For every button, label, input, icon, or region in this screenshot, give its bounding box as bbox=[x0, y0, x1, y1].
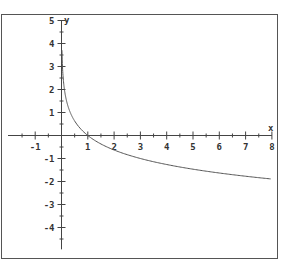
x-tick-label: 8 bbox=[269, 142, 274, 152]
y-tick-label: 3 bbox=[49, 62, 54, 72]
x-tick-label: 1 bbox=[85, 142, 90, 152]
y-tick-label: -3 bbox=[44, 200, 55, 210]
y-tick-label: -2 bbox=[44, 177, 55, 187]
x-tick-label: 4 bbox=[164, 142, 170, 152]
y-tick-label: 5 bbox=[49, 16, 54, 26]
y-axis-label: y bbox=[64, 15, 70, 25]
x-axis-label: x bbox=[268, 123, 274, 133]
x-tick-label: 5 bbox=[190, 142, 195, 152]
x-tick-label: -1 bbox=[30, 142, 41, 152]
x-tick-label: 3 bbox=[138, 142, 143, 152]
function-plot: -11234567854321-1-2-3-4 x y bbox=[0, 0, 287, 265]
y-tick-label: -4 bbox=[44, 223, 55, 233]
y-tick-label: -1 bbox=[44, 154, 55, 164]
y-tick-label: 2 bbox=[49, 85, 54, 95]
x-tick-label: 6 bbox=[217, 142, 222, 152]
x-tick-label: 7 bbox=[243, 142, 248, 152]
y-tick-label: 1 bbox=[49, 108, 54, 118]
y-tick-label: 4 bbox=[49, 39, 55, 49]
